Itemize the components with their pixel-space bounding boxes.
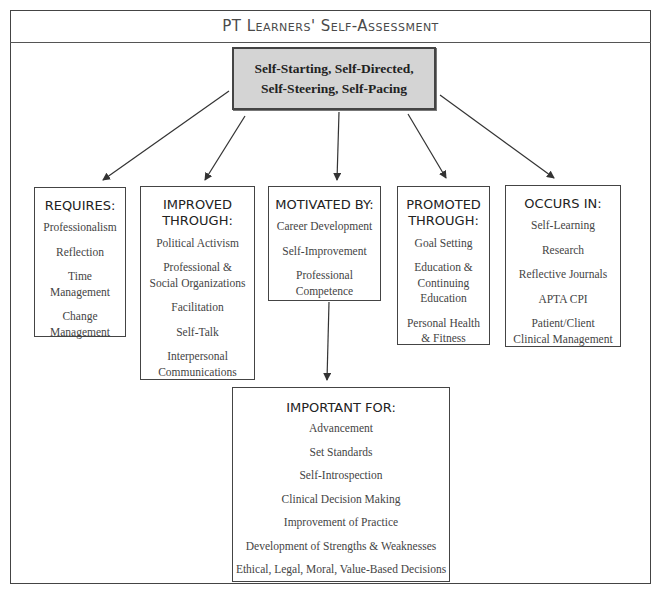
arrow-to-requires — [103, 91, 229, 180]
list-item: InterpersonalCommunications — [141, 349, 254, 380]
list-item: ChangeManagement — [35, 309, 125, 340]
list-item: Goal Setting — [398, 236, 489, 252]
list-item: ProfessionalCompetence — [269, 268, 380, 299]
node-requires: REQUIRES: Professionalism Reflection Tim… — [34, 187, 126, 337]
node-heading: MOTIVATED BY: — [269, 197, 380, 213]
node-heading: IMPORTANT FOR: — [233, 400, 449, 416]
list-item: Reflection — [35, 245, 125, 261]
node-promoted-through: PROMOTEDTHROUGH: Goal Setting Education … — [397, 186, 490, 345]
arrow-to-important-for — [327, 302, 329, 380]
list-item: Reflective Journals — [506, 267, 620, 283]
list-item: TimeManagement — [35, 269, 125, 300]
arrow-to-motivated-by — [337, 112, 339, 180]
list-item: Development of Strengths & Weaknesses — [233, 539, 449, 555]
root-line-1: Self-Starting, Self-Directed, — [254, 59, 413, 79]
list-item: Research — [506, 243, 620, 259]
list-item: Patient/ClientClinical Management — [506, 316, 620, 347]
arrow-to-occurs-in — [440, 95, 554, 178]
node-heading: OCCURS IN: — [506, 196, 620, 212]
node-heading: PROMOTEDTHROUGH: — [398, 197, 489, 230]
node-motivated-by: MOTIVATED BY: Career Development Self-Im… — [268, 186, 381, 301]
list-item: Facilitation — [141, 300, 254, 316]
arrow-to-promoted-through — [408, 114, 446, 178]
node-important-for: IMPORTANT FOR: Advancement Set Standards… — [232, 387, 450, 582]
list-item: Advancement — [233, 421, 449, 437]
list-item: Set Standards — [233, 445, 449, 461]
root-line-2: Self-Steering, Self-Pacing — [261, 79, 407, 99]
list-item: Self-Talk — [141, 325, 254, 341]
list-item: Self-Learning — [506, 218, 620, 234]
node-heading: REQUIRES: — [35, 198, 125, 214]
list-item: Ethical, Legal, Moral, Value-Based Decis… — [233, 562, 449, 578]
list-item: Political Activism — [141, 236, 254, 252]
node-heading: IMPROVEDTHROUGH: — [141, 197, 254, 230]
node-occurs-in: OCCURS IN: Self-Learning Research Reflec… — [505, 185, 621, 347]
list-item: Self-Improvement — [269, 244, 380, 260]
list-item: Self-Introspection — [233, 468, 449, 484]
list-item: Improvement of Practice — [233, 515, 449, 531]
list-item: Professional &Social Organizations — [141, 260, 254, 291]
arrow-to-improved-through — [205, 116, 245, 180]
list-item: Clinical Decision Making — [233, 492, 449, 508]
list-item: APTA CPI — [506, 292, 620, 308]
list-item: Professionalism — [35, 220, 125, 236]
list-item: Personal Health& Fitness — [398, 316, 489, 347]
list-item: Education &ContinuingEducation — [398, 260, 489, 307]
list-item: Career Development — [269, 219, 380, 235]
root-node: Self-Starting, Self-Directed, Self-Steer… — [232, 47, 436, 110]
node-improved-through: IMPROVEDTHROUGH: Political Activism Prof… — [140, 186, 255, 380]
